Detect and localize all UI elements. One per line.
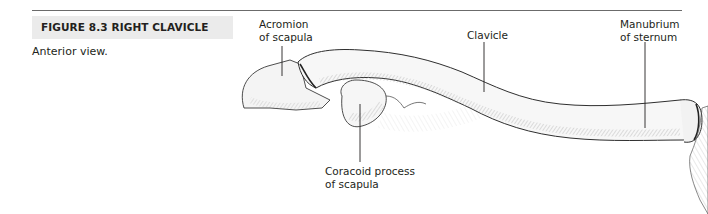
label-coracoid: Coracoid process of scapula: [325, 165, 415, 191]
label-acromion: Acromion of scapula: [259, 18, 313, 44]
label-manubrium: Manubrium of sternum: [620, 18, 680, 44]
label-acromion-line1: Acromion: [259, 18, 313, 31]
label-manubrium-line2: of sternum: [620, 31, 680, 44]
label-coracoid-line2: of scapula: [325, 178, 415, 191]
label-manubrium-line1: Manubrium: [620, 18, 680, 31]
label-coracoid-line1: Coracoid process: [325, 165, 415, 178]
label-acromion-line2: of scapula: [259, 31, 313, 44]
label-clavicle: Clavicle: [467, 29, 508, 42]
